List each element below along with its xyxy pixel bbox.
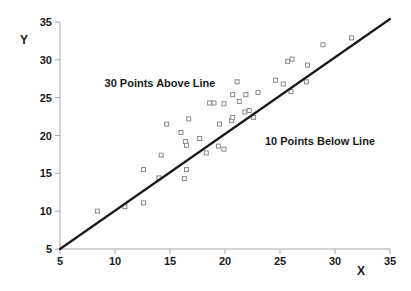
points-above-line-marker xyxy=(281,82,285,86)
points-above-line-marker xyxy=(218,122,222,126)
points-above-line-marker xyxy=(208,101,212,105)
points-below-line-marker xyxy=(222,147,226,151)
points-above-line-marker xyxy=(187,117,191,121)
points-below-line-marker xyxy=(216,144,220,148)
points-above-line-marker xyxy=(222,102,226,106)
points-above-line-marker xyxy=(350,36,354,40)
y-tick-label: 15 xyxy=(40,167,52,179)
y-tick-label: 10 xyxy=(40,205,52,217)
y-tick-label: 30 xyxy=(40,54,52,66)
points-above-line-marker xyxy=(237,99,241,103)
points-above-line-marker xyxy=(235,80,239,84)
y-tick-label: 5 xyxy=(46,243,52,255)
x-tick-label: 25 xyxy=(274,255,286,267)
points-above-line-marker xyxy=(185,143,189,147)
points-below-line-marker xyxy=(185,168,189,172)
points-above-line-marker xyxy=(306,63,310,67)
points-above-line-marker xyxy=(247,109,251,113)
points-above-line-marker xyxy=(274,78,278,82)
annotation-above-line: 30 Points Above Line xyxy=(105,77,216,89)
points-above-line-marker xyxy=(179,130,183,134)
points-below-line-marker xyxy=(304,80,308,84)
x-axis-label: X xyxy=(357,264,365,278)
scatter-chart: 51015202530355101520253035 Y X 30 Points… xyxy=(0,0,411,291)
y-tick-label: 25 xyxy=(40,92,52,104)
x-tick-label: 30 xyxy=(329,255,341,267)
points-above-line-marker xyxy=(321,43,325,47)
points-above-line-marker xyxy=(231,115,235,119)
points-above-line-marker xyxy=(142,168,146,172)
points-above-line-marker xyxy=(165,122,169,126)
y-tick-label: 35 xyxy=(40,16,52,28)
y-axis-label: Y xyxy=(20,33,28,47)
x-tick-label: 15 xyxy=(164,255,176,267)
x-tick-label: 5 xyxy=(57,255,63,267)
points-below-line-marker xyxy=(182,177,186,181)
points-below-line-marker xyxy=(204,151,208,155)
points-above-line-marker xyxy=(198,137,202,141)
points-above-line-marker xyxy=(243,110,247,114)
points-above-line-marker xyxy=(212,101,216,105)
x-tick-label: 35 xyxy=(384,255,396,267)
points-above-line-marker xyxy=(159,153,163,157)
annotation-below-line: 10 Points Below Line xyxy=(265,135,375,147)
points-below-line-marker xyxy=(142,201,146,205)
points-above-line-marker xyxy=(256,90,260,94)
points-above-line-marker xyxy=(231,93,235,97)
points-above-line-marker xyxy=(244,93,248,97)
y-tick-label: 20 xyxy=(40,130,52,142)
points-above-line-marker xyxy=(95,209,99,213)
x-tick-label: 10 xyxy=(109,255,121,267)
points-above-line-marker xyxy=(290,57,294,61)
reference-line xyxy=(60,19,390,249)
points-above-line-marker xyxy=(286,59,290,63)
x-tick-label: 20 xyxy=(219,255,231,267)
